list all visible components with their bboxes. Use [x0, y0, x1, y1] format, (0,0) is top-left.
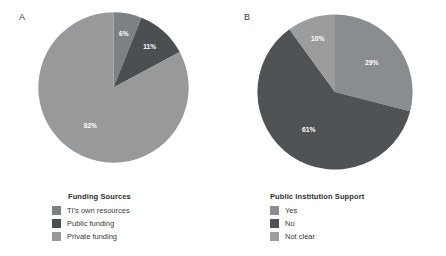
pie-b-svg: 29%61%10% — [255, 12, 415, 172]
legend-color-swatch — [52, 206, 61, 215]
pie-slice-label: 82% — [84, 122, 97, 129]
legend-b: Public Institution Support YesNoNot clea… — [223, 192, 446, 243]
pie-slice-label: 6% — [119, 30, 129, 37]
pie-slice-label: 11% — [143, 43, 156, 50]
panel-b-letter: B — [244, 12, 250, 22]
legend-item-label: No — [285, 220, 295, 228]
legend-item-label: Not clear — [285, 233, 315, 241]
legend-item: Private funding — [52, 230, 223, 243]
legend-item: No — [270, 217, 446, 230]
legend-item-label: Private funding — [67, 233, 117, 241]
figure-two-pie-charts: A 6%11%82% Funding Sources TI's own reso… — [0, 0, 446, 256]
pie-chart-a: 6%11%82% — [36, 10, 191, 165]
legend-item: Yes — [270, 204, 446, 217]
legend-item-label: Yes — [285, 207, 297, 215]
legend-a-title: Funding Sources — [0, 192, 223, 201]
pie-slice-label: 10% — [311, 35, 325, 42]
pie-slice-label: 29% — [365, 59, 379, 66]
legend-item-label: Public funding — [67, 220, 114, 228]
pie-a-svg: 6%11%82% — [36, 10, 191, 165]
legend-color-swatch — [52, 232, 61, 241]
panel-a-letter: A — [19, 12, 25, 22]
legend-item: Not clear — [270, 230, 446, 243]
legend-color-swatch — [270, 206, 279, 215]
legend-color-swatch — [52, 219, 61, 228]
pie-b-slices — [257, 14, 412, 169]
pie-chart-b: 29%61%10% — [255, 12, 415, 172]
pie-a-slices — [38, 12, 188, 162]
legend-item: Public funding — [52, 217, 223, 230]
legend-b-items: YesNoNot clear — [223, 204, 446, 243]
legend-b-title: Public Institution Support — [223, 192, 446, 201]
legend-item-label: TI's own resources — [67, 207, 130, 215]
legend-color-swatch — [270, 219, 279, 228]
panel-a: A 6%11%82% Funding Sources TI's own reso… — [0, 0, 223, 256]
legend-a-items: TI's own resourcesPublic fundingPrivate … — [0, 204, 223, 243]
legend-item: TI's own resources — [52, 204, 223, 217]
panel-b: B 29%61%10% Public Institution Support Y… — [223, 0, 446, 256]
legend-a: Funding Sources TI's own resourcesPublic… — [0, 192, 223, 243]
legend-color-swatch — [270, 232, 279, 241]
pie-slice-label: 61% — [302, 126, 316, 133]
